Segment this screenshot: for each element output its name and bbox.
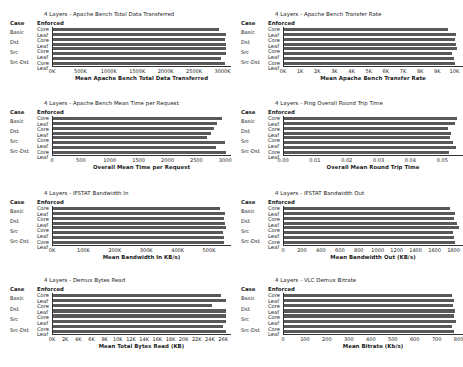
x-tick-label: 24K [205, 336, 215, 343]
chart-panel: 4 Layers - VLC Demux BitrateCaseEnforced… [231, 270, 463, 367]
x-tick-label: 1000 [103, 157, 116, 164]
x-tick-label: 0 [281, 336, 284, 343]
case-label: Src-Dst [10, 146, 37, 156]
bars-plot [284, 116, 463, 156]
chart-title: 4 Layers - Apache Bench Total Data Trans… [0, 0, 231, 18]
bar [284, 304, 453, 307]
bar [53, 151, 226, 154]
enforced-labels: CoreLeafCoreLeafCoreLeafCoreLeaf [268, 293, 284, 335]
case-label: Src [10, 314, 37, 325]
chart-title: 4 Layers - Apache Bench Mean Time per Re… [0, 92, 231, 107]
x-tick-label: 0.01 [309, 157, 320, 164]
bar-row [284, 121, 463, 125]
bar-row [53, 299, 231, 303]
plot-area: BasicDstSrcSrc-DstCoreLeafCoreLeafCoreLe… [231, 116, 463, 156]
case-label: Basic [10, 206, 37, 216]
x-tick-label: 6K [88, 336, 94, 343]
bar [53, 304, 212, 307]
chart-panel: 4 Layers - IFSTAT Bandwidth OutCaseEnfor… [231, 182, 463, 270]
bar-series [53, 27, 231, 66]
bar-row [284, 151, 463, 155]
case-label: Src-Dst [10, 236, 37, 246]
bar [53, 146, 216, 149]
bar-row [53, 57, 231, 61]
case-label: Dst [10, 37, 37, 47]
chart-title: 4 Layers - IFSTAT Bandwidth Out [231, 182, 463, 197]
enforced-labels: CoreLeafCoreLeafCoreLeafCoreLeaf [37, 27, 53, 67]
bar-row [53, 304, 231, 308]
case-column-header: Case [241, 19, 268, 27]
bar-row [284, 57, 463, 61]
x-axis-ticks: 0K500K1000K1500K2000K2500K3000K [52, 67, 231, 76]
case-label: Src-Dst [241, 236, 268, 246]
bar [284, 117, 457, 120]
case-label: Src-Dst [241, 57, 268, 67]
bars-plot [284, 206, 463, 246]
case-label: Basic [10, 293, 37, 304]
case-label: Src [241, 136, 268, 146]
bar-row [284, 309, 463, 313]
case-label: Dst [10, 304, 37, 315]
bar-row [284, 216, 463, 220]
x-axis-ticks: 0100200300400500600700800 [283, 335, 463, 344]
bar [53, 57, 221, 60]
x-tick-label: 2K [314, 68, 320, 75]
bar [53, 241, 224, 244]
case-label: Basic [241, 27, 268, 37]
case-label: Basic [10, 27, 37, 37]
plot-area: BasicDstSrcSrc-DstCoreLeafCoreLeafCoreLe… [231, 27, 463, 67]
x-tick-label: 18K [166, 336, 176, 343]
case-column-header: Case [241, 198, 268, 206]
case-label: Src [241, 226, 268, 236]
x-tick-label: 1000 [371, 247, 384, 254]
case-label: Dst [10, 126, 37, 136]
x-tick-label: 26K [218, 336, 228, 343]
chart-panel: 4 Layers - Apache Bench Total Data Trans… [0, 0, 231, 92]
bar-row [284, 319, 463, 323]
bar-row [53, 62, 231, 66]
bar [284, 127, 448, 130]
x-tick-label: 16K [152, 336, 162, 343]
bar [284, 330, 454, 333]
bar-row [53, 121, 231, 125]
bars-plot [53, 293, 231, 335]
x-tick-label: 20K [179, 336, 189, 343]
bar-row [284, 62, 463, 66]
case-column-header: Case [10, 198, 37, 206]
x-tick-label: 0.04 [405, 157, 416, 164]
bar [284, 217, 454, 220]
bar-series [284, 206, 463, 245]
x-tick-label: 10K [113, 336, 123, 343]
bar [284, 62, 455, 65]
bar-row [53, 324, 231, 328]
plot-area: BasicDstSrcSrc-DstCoreLeafCoreLeafCoreLe… [231, 293, 463, 335]
bar [53, 314, 226, 317]
bar-series [284, 293, 463, 334]
bar [284, 222, 457, 225]
bar-row [284, 241, 463, 245]
x-tick-label: 0.03 [373, 157, 384, 164]
bar [284, 314, 454, 317]
bar-row [53, 236, 231, 240]
bar-row [284, 329, 463, 333]
bar [284, 212, 455, 215]
bar [53, 325, 223, 328]
bar-row [53, 37, 231, 41]
case-column-header: Case [10, 19, 37, 27]
x-tick-label: 200 [297, 247, 307, 254]
case-label: Src [10, 47, 37, 57]
bar-row [53, 42, 231, 46]
bar-row [53, 226, 231, 230]
bar-row [53, 126, 231, 130]
case-label: Dst [241, 126, 268, 136]
plot-area: BasicDstSrcSrc-DstCoreLeafCoreLeafCoreLe… [0, 293, 231, 335]
bars-plot [284, 293, 463, 335]
x-tick-label: 2000K [158, 68, 174, 75]
bar-row [53, 221, 231, 225]
bar [284, 241, 455, 244]
case-label: Dst [10, 216, 37, 226]
bar [284, 146, 456, 149]
table-header: CaseEnforced [0, 19, 231, 27]
x-tick-label: 500K [203, 247, 216, 254]
x-tick-label: 10K [450, 68, 460, 75]
